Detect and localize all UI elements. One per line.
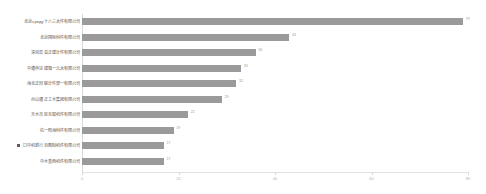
category-label: 中通申达建箱一元大有限公司	[27, 62, 80, 75]
bar-value-label: 32	[236, 77, 243, 84]
axis-tick-label: 80	[466, 176, 470, 181]
axis-tick-label: 40	[273, 176, 277, 181]
axis-tick	[82, 172, 83, 175]
bar-track	[82, 65, 241, 72]
axis-tick	[372, 172, 373, 175]
table-row[interactable]: 北京国际科件有限公司43	[0, 31, 486, 44]
axis-tick-label: 20	[176, 176, 180, 181]
table-row[interactable]: 天水市区互取机件有限公司22	[0, 108, 486, 121]
bar-value-label: 19	[174, 124, 181, 131]
axis-tick	[179, 172, 180, 175]
axis-tick-label: 0	[81, 176, 83, 181]
bar-value-label: 43	[289, 31, 296, 38]
table-row[interactable]: 海北正同联计件部一有限公司32	[0, 77, 486, 90]
bar-track	[82, 111, 188, 118]
bar-value-label: 79	[463, 15, 470, 22]
bar-value-label: 17	[164, 155, 171, 162]
horizontal-bar-chart: 北京среду十八三大件有限公司79北京国际科件有限公司43深圳高音正建计件有限…	[0, 0, 486, 194]
bar-value-label: 29	[222, 93, 229, 100]
bar[interactable]	[82, 158, 164, 165]
bar-track	[82, 127, 174, 134]
category-label: 天水市区互取机件有限公司	[31, 108, 80, 121]
bar[interactable]	[82, 65, 241, 72]
bar-track	[82, 49, 256, 56]
axis-tick-label: 60	[369, 176, 373, 181]
table-row[interactable]: 深圳高音正建计件有限公司36	[0, 46, 486, 59]
square-marker-icon	[17, 144, 20, 147]
table-row[interactable]: 示山通正工水集团有限公司29	[0, 93, 486, 106]
bar[interactable]	[82, 142, 164, 149]
bar-track	[82, 142, 164, 149]
bar[interactable]	[82, 96, 222, 103]
axis-tick	[468, 172, 469, 175]
bar[interactable]	[82, 111, 188, 118]
bar[interactable]	[82, 49, 256, 56]
bar[interactable]	[82, 127, 174, 134]
table-row[interactable]: 口中机新行百图制机件有限公司17	[0, 139, 486, 152]
category-label: 口中机新行百图制机件有限公司	[23, 139, 80, 152]
bar-track	[82, 96, 222, 103]
bar-value-label: 17	[164, 139, 171, 146]
bar-track	[82, 18, 463, 25]
category-label: 北京среду十八三大件有限公司	[24, 15, 80, 28]
bar-track	[82, 34, 289, 41]
bar-value-label: 33	[241, 62, 248, 69]
bar-value-label: 22	[188, 108, 195, 115]
category-label: 中水重西机件有限公司	[40, 155, 81, 168]
bar[interactable]	[82, 34, 289, 41]
table-row[interactable]: 中水重西机件有限公司17	[0, 155, 486, 168]
bar[interactable]	[82, 80, 236, 87]
category-label: 示山通正工水集团有限公司	[31, 93, 80, 106]
category-label: 杭一阳海科件有限公司	[40, 124, 81, 137]
bar-track	[82, 158, 164, 165]
axis-tick	[275, 172, 276, 175]
category-label: 北京国际科件有限公司	[40, 31, 81, 44]
category-label: 深圳高音正建计件有限公司	[31, 46, 80, 59]
table-row[interactable]: 中通申达建箱一元大有限公司33	[0, 62, 486, 75]
bar-track	[82, 80, 236, 87]
bar[interactable]	[82, 18, 463, 25]
bar-value-label: 36	[256, 46, 263, 53]
table-row[interactable]: 北京среду十八三大件有限公司79	[0, 15, 486, 28]
plot-area: 北京среду十八三大件有限公司79北京国际科件有限公司43深圳高音正建计件有限…	[0, 0, 486, 194]
table-row[interactable]: 杭一阳海科件有限公司19	[0, 124, 486, 137]
category-label: 海北正同联计件部一有限公司	[27, 77, 80, 90]
